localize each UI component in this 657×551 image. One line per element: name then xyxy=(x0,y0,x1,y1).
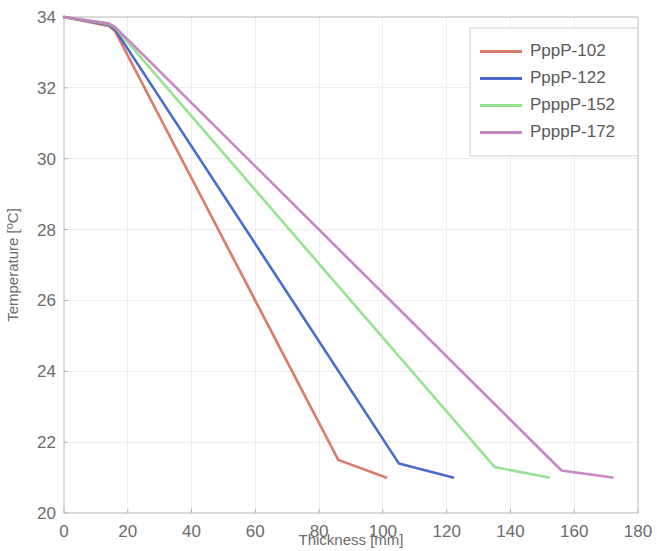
y-tick-label: 34 xyxy=(37,8,56,27)
x-tick-label: 120 xyxy=(432,522,460,541)
series-line-pppp-122 xyxy=(64,17,453,478)
x-tick-label: 60 xyxy=(246,522,265,541)
legend-label-ppppp-172: PpppP-172 xyxy=(530,122,615,141)
y-tick-label: 28 xyxy=(37,221,56,240)
y-tick-label: 26 xyxy=(37,291,56,310)
legend-label-ppppp-152: PpppP-152 xyxy=(530,95,615,114)
chart-figure: 0204060801001201401601802022242628303234… xyxy=(0,0,657,551)
x-axis-title: Thickness [mm] xyxy=(298,531,403,548)
chart-legend: PppP-102PppP-122PpppP-152PpppP-172 xyxy=(470,28,638,156)
legend-label-pppp-102: PppP-102 xyxy=(530,41,606,60)
x-tick-label: 160 xyxy=(560,522,588,541)
x-tick-label: 180 xyxy=(624,522,652,541)
y-tick-label: 20 xyxy=(37,504,56,523)
line-chart: 0204060801001201401601802022242628303234… xyxy=(0,0,657,551)
x-tick-label: 0 xyxy=(59,522,68,541)
y-tick-label: 22 xyxy=(37,433,56,452)
y-axis-title-suffix: C] xyxy=(4,208,21,223)
y-tick-label: 32 xyxy=(37,79,56,98)
y-axis-title: Temperature [oC] xyxy=(3,208,21,322)
y-tick-label: 24 xyxy=(37,362,56,381)
legend-label-pppp-122: PppP-122 xyxy=(530,68,606,87)
x-tick-label: 20 xyxy=(118,522,137,541)
x-tick-label: 140 xyxy=(496,522,524,541)
y-axis-title-prefix: Temperature [ xyxy=(4,228,21,321)
x-tick-label: 40 xyxy=(182,522,201,541)
y-tick-label: 30 xyxy=(37,150,56,169)
